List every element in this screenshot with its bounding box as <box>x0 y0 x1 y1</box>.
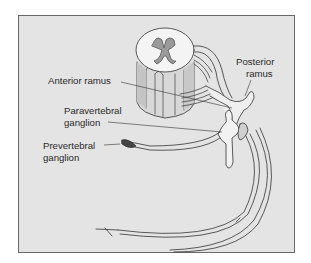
leader-anterior-ramus <box>121 82 232 108</box>
leader-paravertebral <box>108 122 222 132</box>
leader-posterior-ramus <box>245 80 251 96</box>
leader-prevertebral <box>104 144 120 145</box>
leader-lines <box>0 0 311 263</box>
